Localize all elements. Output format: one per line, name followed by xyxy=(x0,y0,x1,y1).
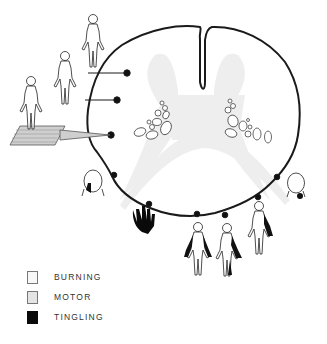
root-dot-4 xyxy=(111,172,117,178)
legend-label-tingling: TINGLING xyxy=(54,310,104,324)
seated-figure-middle xyxy=(54,52,76,105)
face-right xyxy=(287,173,305,199)
legend-item-motor: MOTOR xyxy=(27,290,38,304)
root-dot-7 xyxy=(222,212,228,218)
root-dot-5 xyxy=(146,201,152,207)
face-left xyxy=(82,170,104,196)
spinal-cord-diagram xyxy=(0,0,327,344)
right-nuclei xyxy=(224,99,272,143)
figure-bottom-1 xyxy=(184,223,212,276)
figure-bottom-2 xyxy=(216,224,242,277)
legend-item-tingling: TINGLING xyxy=(27,310,38,324)
root-dot-8 xyxy=(255,194,261,200)
root-dot-6 xyxy=(194,211,200,217)
standing-figure-on-platform xyxy=(20,77,42,130)
figure-bottom-3 xyxy=(248,202,273,255)
tingling-swatch xyxy=(27,311,38,324)
root-dot-1 xyxy=(124,70,130,76)
root-dot-2 xyxy=(114,97,120,103)
burning-swatch xyxy=(27,271,38,284)
standing-figure-top xyxy=(82,15,104,68)
legend-label-motor: MOTOR xyxy=(54,290,91,304)
hand xyxy=(133,206,155,234)
root-dot-9 xyxy=(274,174,280,180)
legend-item-burning: BURNING xyxy=(27,270,38,284)
legend-label-burning: BURNING xyxy=(54,270,102,284)
hatched-platform xyxy=(10,126,110,145)
motor-swatch xyxy=(27,291,38,304)
